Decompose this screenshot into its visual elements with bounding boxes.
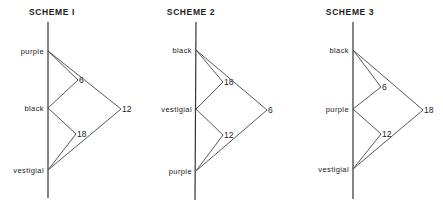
- distance-value: 12: [224, 130, 234, 140]
- gene-label-purple: purple: [326, 105, 349, 114]
- scheme-1: SCHEME Ipurpleblackvestigial61812: [13, 7, 131, 198]
- scheme-title: SCHEME I: [29, 7, 75, 17]
- distance-value: 18: [77, 129, 87, 139]
- distance-bracket-black-vestigial: [196, 50, 223, 109]
- distance-bracket-black-purple: [353, 50, 381, 109]
- distance-bracket-vestigial-purple: [196, 109, 223, 171]
- distance-bracket-purple-vestigial: [48, 51, 121, 170]
- gene-label-vestigial: vestigial: [13, 166, 44, 175]
- distance-value: 18: [424, 105, 434, 115]
- gene-label-purple: purple: [169, 167, 192, 176]
- scheme-title: SCHEME 3: [326, 7, 374, 17]
- distance-bracket-purple-vestigial: [353, 109, 381, 169]
- gene-label-black: black: [172, 46, 192, 55]
- distance-bracket-purple-black: [48, 51, 78, 108]
- gene-order-schemes-diagram: SCHEME Ipurpleblackvestigial61812 SCHEME…: [0, 0, 443, 211]
- gene-label-vestigial: vestigial: [318, 165, 349, 174]
- gene-label-black: black: [24, 104, 44, 113]
- scheme-2: SCHEME 2blackvestigialpurple18126: [161, 7, 273, 200]
- scheme-3: SCHEME 3blackpurplevestigial61218: [318, 7, 433, 199]
- distance-value: 18: [224, 77, 234, 87]
- distance-value: 6: [268, 105, 273, 115]
- gene-label-black: black: [329, 46, 349, 55]
- distance-bracket-black-vestigial: [48, 108, 76, 170]
- distance-value: 12: [122, 104, 132, 114]
- distance-bracket-black-purple: [196, 50, 267, 171]
- distance-bracket-black-vestigial: [353, 50, 423, 169]
- gene-label-purple: purple: [21, 47, 44, 56]
- gene-label-vestigial: vestigial: [161, 105, 192, 114]
- scheme-title: SCHEME 2: [167, 7, 215, 17]
- chromosome-axis: [195, 22, 196, 200]
- distance-value: 6: [382, 82, 387, 92]
